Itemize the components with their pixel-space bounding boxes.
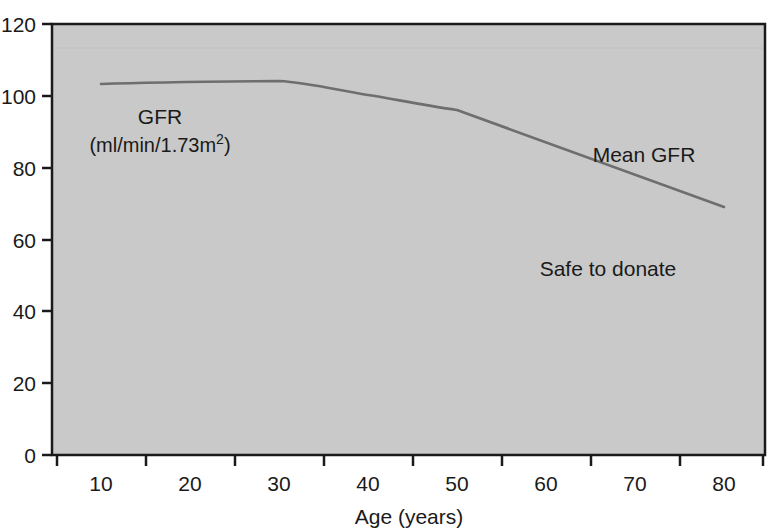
x-axis-title: Age (years)	[355, 505, 464, 528]
y-tick-label-40: 40	[13, 300, 36, 323]
x-tick-label-10: 10	[89, 472, 112, 495]
y-tick-label-100: 100	[1, 85, 36, 108]
x-tick-label-40: 40	[356, 472, 379, 495]
plot-area-background	[52, 24, 765, 455]
x-tick-label-70: 70	[623, 472, 646, 495]
y-axis-ticks	[42, 24, 52, 455]
x-axis-ticks	[57, 455, 763, 466]
y-tick-label-20: 20	[13, 372, 36, 395]
x-tick-label-20: 20	[178, 472, 201, 495]
y-units-suffix: )	[224, 134, 231, 156]
chart-figure: 120 100 80 60 40 20 0 10 20 30 40 50 60 …	[0, 0, 781, 532]
gfr-age-line-chart: 120 100 80 60 40 20 0 10 20 30 40 50 60 …	[0, 0, 781, 532]
y-axis-label-gfr: GFR	[138, 105, 182, 128]
x-tick-label-80: 80	[712, 472, 735, 495]
x-tick-label-30: 30	[267, 472, 290, 495]
annotation-mean-gfr: Mean GFR	[593, 143, 696, 166]
x-tick-label-50: 50	[445, 472, 468, 495]
y-tick-label-120: 120	[1, 13, 36, 36]
x-tick-label-60: 60	[534, 472, 557, 495]
y-units-prefix: (ml/min/1.73m	[89, 134, 216, 156]
y-units-superscript: 2	[216, 131, 224, 147]
annotation-safe-to-donate: Safe to donate	[540, 257, 677, 280]
y-tick-label-60: 60	[13, 229, 36, 252]
y-axis-label-units: (ml/min/1.73m2)	[89, 131, 230, 156]
y-tick-label-0: 0	[24, 444, 36, 467]
y-tick-label-80: 80	[13, 157, 36, 180]
